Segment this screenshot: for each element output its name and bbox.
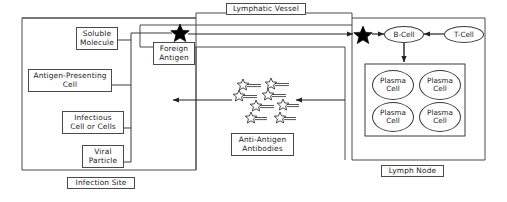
t-cell-oval: T-Cell <box>444 26 484 43</box>
b-cell-oval: B-Cell <box>384 26 424 43</box>
infectious-cell-box: Infectious Cell or Cells <box>62 111 124 134</box>
plasma-cell-oval-1: Plasma Cell <box>372 70 414 100</box>
plasma-cell-oval-2: Plasma Cell <box>419 70 461 100</box>
anti-antigen-antibodies-label: Anti-Antigen Antibodies <box>231 133 294 156</box>
lymphatic-vessel-label: Lymphatic Vessel <box>226 3 306 15</box>
anti-antigen-antibody-cluster <box>233 78 299 123</box>
infection-site-label: Infection Site <box>67 177 135 189</box>
plasma-cell-4-line2: Cell <box>433 117 446 125</box>
antigen-presenting-cell-line2: Cell <box>31 81 109 90</box>
viral-particle-line2: Particle <box>85 157 121 166</box>
soluble-molecule-line2: Molecule <box>79 39 115 48</box>
plasma-cell-oval-4: Plasma Cell <box>419 102 461 132</box>
foreign-antigen-star-right <box>354 26 373 44</box>
plasma-cell-oval-3: Plasma Cell <box>372 102 414 132</box>
lymph-node-label: Lymph Node <box>381 165 444 177</box>
foreign-antigen-star-left <box>171 24 190 42</box>
infectious-cell-line2: Cell or Cells <box>65 123 121 132</box>
diagram-canvas: Lymphatic Vessel Soluble Molecule Antige… <box>0 0 507 202</box>
foreign-antigen-box: Foreign Antigen <box>153 42 195 65</box>
viral-particle-box: Viral Particle <box>82 145 124 168</box>
plasma-cell-2-line2: Cell <box>433 85 446 93</box>
antibodies-line2: Antibodies <box>234 145 291 154</box>
plasma-cell-1-line2: Cell <box>386 85 399 93</box>
antigen-presenting-cell-box: Antigen-Presenting Cell <box>28 69 112 92</box>
plasma-cell-3-line2: Cell <box>386 117 399 125</box>
foreign-antigen-line2: Antigen <box>156 54 192 63</box>
soluble-molecule-box: Soluble Molecule <box>76 27 118 50</box>
